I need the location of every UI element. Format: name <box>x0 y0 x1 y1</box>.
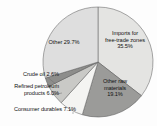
pie-slices <box>43 7 153 117</box>
pie-label-crude-oil: Crude oil 2.6% <box>1 71 59 78</box>
pie-chart: Imports for free-trade zones 35.5% Other… <box>0 0 157 126</box>
pie-label-refined-petroleum-products: Refined petroleum products 6.0% <box>1 83 59 96</box>
pie-label-consumer-durables: Consumer durables 7.1% <box>1 106 76 113</box>
